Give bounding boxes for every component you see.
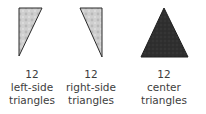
right-side-triangle-shape (80, 8, 102, 57)
right-side-name-line1: right-side (56, 81, 126, 94)
center-triangle-shape (141, 8, 188, 57)
right-side-count: 12 (56, 68, 126, 81)
center-name-line2: triangles (129, 94, 199, 107)
left-side-triangle-shape (19, 8, 42, 56)
center-name-line1: center (129, 81, 199, 94)
center-triangle-label: 12 center triangles (129, 68, 199, 107)
right-side-triangle-label: 12 right-side triangles (56, 68, 126, 107)
center-count: 12 (129, 68, 199, 81)
right-side-name-line2: triangles (56, 94, 126, 107)
